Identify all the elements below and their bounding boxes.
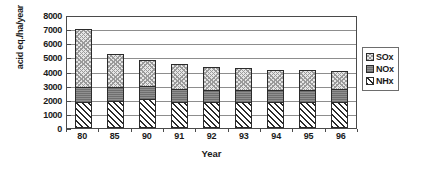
x-axis-tick-label: 80 bbox=[77, 131, 87, 141]
bar-segment-nox[interactable] bbox=[139, 87, 156, 99]
y-axis-tick-label: 6000 bbox=[43, 39, 62, 49]
y-axis-tick-label: 0 bbox=[57, 124, 62, 134]
plot-area bbox=[66, 16, 357, 129]
bar-group bbox=[324, 16, 356, 128]
bar-segment-nhx[interactable] bbox=[171, 103, 188, 128]
y-axis-tick-label: 3000 bbox=[43, 82, 62, 92]
stacked-bar[interactable] bbox=[267, 70, 284, 128]
x-axis-tick-label: 85 bbox=[110, 131, 120, 141]
legend-item-sox[interactable]: SOx bbox=[366, 51, 394, 63]
stacked-bar[interactable] bbox=[139, 60, 156, 128]
bar-segment-sox[interactable] bbox=[139, 60, 156, 87]
bar-segment-nox[interactable] bbox=[267, 91, 284, 103]
bar-segment-sox[interactable] bbox=[171, 64, 188, 91]
legend-item-label: NHx bbox=[376, 76, 393, 86]
bar-segment-sox[interactable] bbox=[331, 71, 348, 91]
bar-segment-nox[interactable] bbox=[75, 88, 92, 103]
bar-group bbox=[131, 16, 163, 128]
stacked-bar[interactable] bbox=[171, 64, 188, 128]
bar-segment-sox[interactable] bbox=[203, 67, 220, 91]
stacked-bar[interactable] bbox=[331, 71, 348, 128]
y-axis-tick-label: 7000 bbox=[43, 25, 62, 35]
bar-segment-nox[interactable] bbox=[171, 90, 188, 102]
bar-segment-sox[interactable] bbox=[107, 54, 124, 88]
bar-segment-nhx[interactable] bbox=[75, 103, 92, 128]
bar-group bbox=[99, 16, 131, 128]
bar-segment-nhx[interactable] bbox=[299, 103, 316, 128]
bar-segment-nox[interactable] bbox=[235, 91, 252, 103]
legend-item-nhx[interactable]: NHx bbox=[366, 75, 394, 87]
stacked-bar[interactable] bbox=[235, 68, 252, 128]
x-axis-tick-label: 95 bbox=[304, 131, 314, 141]
legend-item-nox[interactable]: NOx bbox=[366, 63, 394, 75]
y-axis-tick-label: 4000 bbox=[43, 68, 62, 78]
y-axis-tick-label: 1000 bbox=[43, 110, 62, 120]
stacked-bar[interactable] bbox=[299, 70, 316, 128]
bar-group bbox=[163, 16, 195, 128]
bar-segment-sox[interactable] bbox=[299, 70, 316, 90]
y-axis-title: acid eq./ha/year bbox=[15, 0, 25, 85]
bar-group bbox=[195, 16, 227, 128]
bar-group bbox=[292, 16, 324, 128]
bar-segment-nhx[interactable] bbox=[331, 103, 348, 128]
bar-segment-sox[interactable] bbox=[75, 29, 92, 88]
y-axis-tick-label: 5000 bbox=[43, 53, 62, 63]
bar-segment-nhx[interactable] bbox=[235, 103, 252, 128]
stacked-bar-chart-figure: acid eq./ha/year 80007000600050004000300… bbox=[0, 0, 425, 171]
legend: SOxNOxNHx bbox=[362, 47, 399, 91]
bar-segment-sox[interactable] bbox=[267, 70, 284, 91]
x-axis-title: Year bbox=[66, 148, 357, 159]
y-axis-tick-label: 2000 bbox=[43, 96, 62, 106]
bar-segment-nox[interactable] bbox=[107, 88, 124, 102]
stacked-bar[interactable] bbox=[75, 29, 92, 128]
bar-segment-nhx[interactable] bbox=[139, 100, 156, 128]
x-axis-tick-mark bbox=[357, 129, 358, 132]
x-axis-tick-label: 91 bbox=[174, 131, 184, 141]
y-axis-tick-labels: 800070006000500040003000200010000 bbox=[26, 12, 62, 129]
nhx-swatch-icon bbox=[366, 77, 374, 85]
stacked-bar[interactable] bbox=[203, 67, 220, 128]
legend-item-label: NOx bbox=[376, 64, 394, 74]
bar-segment-nhx[interactable] bbox=[203, 103, 220, 128]
y-axis-tick-label: 8000 bbox=[43, 11, 62, 21]
nox-swatch-icon bbox=[366, 65, 374, 73]
bar-segment-nox[interactable] bbox=[331, 90, 348, 102]
bar-group bbox=[228, 16, 260, 128]
bar-segment-nhx[interactable] bbox=[107, 102, 124, 128]
sox-swatch-icon bbox=[366, 53, 374, 61]
bar-group bbox=[67, 16, 99, 128]
bar-segment-nox[interactable] bbox=[299, 91, 316, 103]
x-axis-tick-label: 96 bbox=[336, 131, 346, 141]
x-axis-tick-label: 92 bbox=[207, 131, 217, 141]
x-axis-tick-label: 94 bbox=[271, 131, 281, 141]
legend-item-label: SOx bbox=[376, 52, 393, 62]
x-axis-tick-labels: 808590919293949596 bbox=[66, 131, 357, 145]
bar-group bbox=[260, 16, 292, 128]
x-axis-tick-label: 93 bbox=[239, 131, 249, 141]
bar-segment-sox[interactable] bbox=[235, 68, 252, 91]
x-axis-tick-label: 90 bbox=[142, 131, 152, 141]
bars-container bbox=[67, 16, 356, 128]
bar-segment-nhx[interactable] bbox=[267, 103, 284, 128]
bar-segment-nox[interactable] bbox=[203, 91, 220, 103]
stacked-bar[interactable] bbox=[107, 54, 124, 128]
